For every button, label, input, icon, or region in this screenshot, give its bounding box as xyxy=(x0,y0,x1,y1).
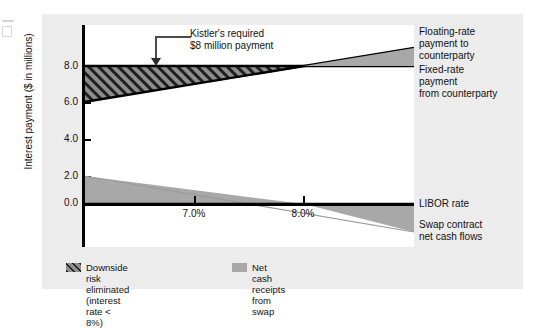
annotation-arrow-head xyxy=(151,58,161,66)
label-swap-contract-net-cash-flows: Swap contract net cash flows xyxy=(419,219,482,243)
annotation-leader-line xyxy=(155,36,191,38)
label-floating-rate-payment: Floating-rate payment to counterparty xyxy=(419,26,475,62)
x-tick-7 xyxy=(194,196,196,204)
legend-swatch-solid xyxy=(232,263,247,272)
x-tick-8 xyxy=(303,196,305,204)
annotation-kistler-payment: Kistler's required $8 million payment xyxy=(190,28,273,52)
x-axis-label-7: 7.0% xyxy=(172,208,216,219)
x-axis-line xyxy=(82,203,414,206)
legend-label-downside-risk: Downside risk eliminated (interest rate … xyxy=(86,262,129,328)
y-axis-line xyxy=(82,25,85,247)
x-axis-label-8: 8.0% xyxy=(281,208,325,219)
label-fixed-rate-payment: Fixed-rate payment from counterparty xyxy=(419,64,497,100)
label-libor-rate: LIBOR rate xyxy=(419,198,469,210)
legend-label-net-cash-receipts: Net cash receipts from swap xyxy=(252,262,285,317)
legend-swatch-hatched xyxy=(66,263,81,272)
